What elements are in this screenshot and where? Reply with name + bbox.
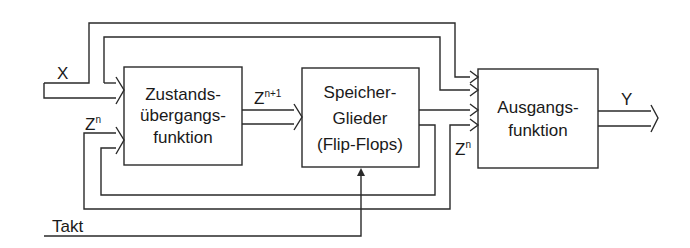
signal-takt-label: Takt	[52, 217, 83, 236]
signal-x-label: X	[57, 64, 68, 83]
block2-line2: Glieder	[333, 109, 388, 128]
zn1-arrow	[242, 104, 302, 130]
y-output-arrow	[598, 105, 658, 132]
block1-line1: Zustands-	[145, 85, 221, 104]
signal-zn-in-label: Zn	[85, 114, 101, 134]
block2-line3: (Flip-Flops)	[317, 135, 403, 154]
block1-line2: übergangs-	[140, 106, 226, 125]
sequential-circuit-diagram: Zustands- übergangs- funktion Speicher- …	[0, 0, 690, 248]
block1-line3: funktion	[153, 128, 213, 147]
state-to-output-arrow	[419, 104, 478, 131]
takt-clock-line	[44, 175, 361, 236]
block3-line1: Ausgangs-	[497, 98, 578, 117]
block3-line2: funktion	[508, 121, 568, 140]
block2-line1: Speicher-	[324, 83, 397, 102]
block-ausgangsfunktion	[478, 69, 598, 168]
clock-arrow-icon	[357, 168, 365, 176]
signal-zn1-label: Zn+1	[254, 88, 282, 108]
signal-y-label: Y	[621, 90, 632, 109]
signal-zn-out-label: Zn	[455, 139, 471, 159]
